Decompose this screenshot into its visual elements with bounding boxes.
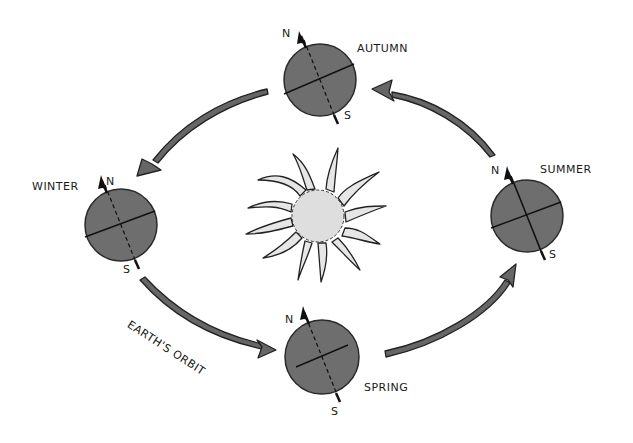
arrow-spring-to-summer <box>385 264 516 357</box>
north-label-autumn: N <box>282 27 291 40</box>
season-label-winter: WINTER <box>32 180 79 193</box>
south-label-winter: S <box>123 263 130 276</box>
earth-orbit-diagram: AUTUMN N S WINTER N S SUMMER N S SPRING … <box>0 0 633 443</box>
north-label-spring: N <box>285 313 294 326</box>
south-label-spring: S <box>331 405 338 418</box>
north-label-summer: N <box>491 164 500 177</box>
south-label-summer: S <box>549 248 556 261</box>
south-label-autumn: S <box>344 109 351 122</box>
earth-globe-winter <box>85 175 157 269</box>
season-label-spring: SPRING <box>364 381 408 394</box>
sun <box>246 148 386 282</box>
earth-globe-spring <box>285 306 359 402</box>
arrow-autumn-to-winter <box>137 89 268 176</box>
north-label-winter: N <box>106 175 115 188</box>
arrow-summer-to-autumn <box>372 80 495 157</box>
season-label-autumn: AUTUMN <box>357 42 408 55</box>
earth-globe-summer <box>491 166 563 260</box>
season-label-summer: SUMMER <box>540 163 592 176</box>
sun-disc <box>292 190 344 242</box>
